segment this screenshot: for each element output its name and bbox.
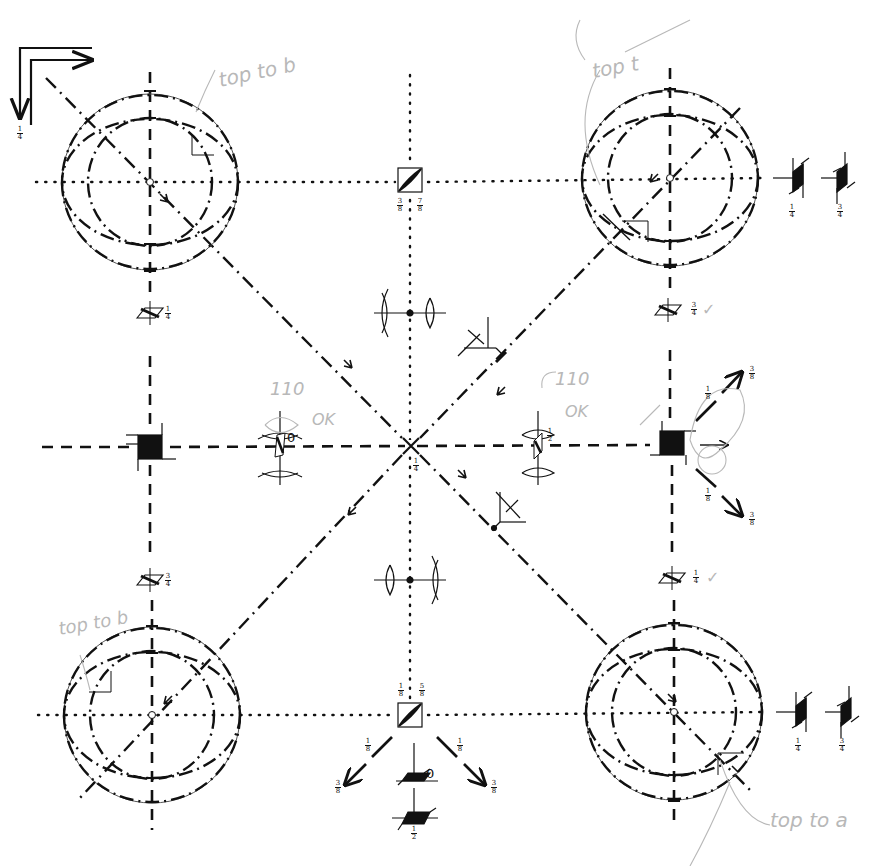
bs-bottom-label-1: 1 8 — [397, 683, 405, 698]
fraction-den: 8 — [456, 746, 464, 753]
fraction-num: 3 — [748, 512, 756, 519]
lens-pair-left — [258, 411, 302, 485]
sphere-bottom-right — [586, 623, 762, 801]
sphere-top-right — [582, 89, 758, 267]
fraction-num: 3 — [836, 204, 844, 211]
waveplate-left-top — [137, 301, 163, 325]
annotation-right-110: 110 — [555, 368, 589, 389]
fraction-den: 8 — [334, 788, 342, 795]
fraction-num: 7 — [416, 198, 424, 205]
fraction-num: 3 — [490, 780, 498, 787]
lens-right-plate-label: 1 2 — [546, 428, 554, 443]
fraction-num: 1 — [704, 488, 712, 495]
det-right-up-label-1: 1 8 — [704, 386, 712, 401]
fraction-den: 4 — [838, 746, 846, 753]
detector-left — [126, 423, 176, 471]
bottom-left-arrow-label-1: 1 8 — [364, 738, 372, 753]
fraction-den: 8 — [748, 374, 756, 381]
waveplate-left-bottom — [137, 568, 163, 592]
fraction-den: 4 — [836, 212, 844, 219]
fraction-den: 8 — [364, 746, 372, 753]
fraction-den: 8 — [416, 206, 424, 213]
waveplate-left-bottom-label: 3 4 — [164, 573, 172, 588]
fraction-num: 5 — [418, 683, 426, 690]
bottom-plate-upper-label: 0 — [426, 766, 434, 781]
fraction-num: 1 — [794, 738, 802, 745]
check-mark-right-top: ✓ — [702, 300, 715, 319]
det-right-down-label-1: 1 8 — [704, 488, 712, 503]
fraction-num: 3 — [164, 573, 172, 580]
waveplate-right-top-label: 3 4 — [690, 302, 698, 317]
fraction-num: 3 — [334, 780, 342, 787]
check-mark-right-bottom: ✓ — [706, 568, 719, 587]
bs-top-label-2: 7 8 — [416, 198, 424, 213]
fraction-num: 3 — [690, 302, 698, 309]
bottom-left-arrow-label-2: 3 8 — [334, 780, 342, 795]
fraction-den: 8 — [704, 394, 712, 401]
fraction-num: 1 — [364, 738, 372, 745]
detector-right-outputs — [696, 372, 742, 516]
fraction-den: 4 — [164, 581, 172, 588]
fraction-num: 3 — [396, 198, 404, 205]
fraction-num: 1 — [164, 306, 172, 313]
fraction-den: 2 — [410, 834, 418, 841]
fraction-den: 4 — [692, 578, 700, 585]
fraction-num: 3 — [748, 366, 756, 373]
fraction-num: 1 — [410, 826, 418, 833]
fraction-num: 1 — [692, 570, 700, 577]
right-plate-bottom-1-label: 1 4 — [794, 738, 802, 753]
annotation-left-110: 110 — [270, 378, 304, 399]
waveplate-right-top — [655, 298, 681, 322]
fraction-num: 1 — [546, 428, 554, 435]
mirror-lower — [492, 492, 527, 531]
center-crossing — [403, 438, 419, 454]
fraction-den: 8 — [396, 206, 404, 213]
fraction-den: 8 — [704, 496, 712, 503]
corner-fraction: 1 4 — [16, 126, 24, 141]
det-right-up-label-2: 3 8 — [748, 366, 756, 381]
fraction-den: 8 — [418, 691, 426, 698]
fraction-den: 2 — [546, 436, 554, 443]
fraction-den: 4 — [690, 310, 698, 317]
det-right-down-label-2: 3 8 — [748, 512, 756, 527]
right-plate-bottom-2-label: 3 4 — [838, 738, 846, 753]
annotation-right-ok: OK — [565, 402, 588, 421]
fraction-num: 3 — [838, 738, 846, 745]
beam-splitter-top — [398, 168, 422, 192]
bottom-plates — [392, 743, 438, 830]
beam-splitter-bottom — [398, 703, 422, 727]
center-label: 1 4 — [412, 458, 420, 473]
fraction-num: 1 — [397, 683, 405, 690]
right-plate-top-1-label: 1 4 — [788, 204, 796, 219]
bs-top-label-1: 3 8 — [396, 198, 404, 213]
detector-right — [650, 421, 696, 465]
waveplate-left-top-label: 1 4 — [164, 306, 172, 321]
fraction-den: 4 — [16, 134, 24, 141]
annotation-bottom-right-sphere: top to a — [770, 808, 848, 832]
fraction-den: 8 — [748, 520, 756, 527]
fraction-den: 8 — [397, 691, 405, 698]
bs-bottom-label-2: 5 8 — [418, 683, 426, 698]
fraction-num: 1 — [16, 126, 24, 133]
fraction-den: 8 — [490, 788, 498, 795]
bottom-right-arrow-label-2: 3 8 — [490, 780, 498, 795]
waveplate-right-bottom-label: 1 4 — [692, 570, 700, 585]
lens-left-plate-label: 0 — [287, 430, 295, 445]
fraction-den: 4 — [164, 314, 172, 321]
annotation-left-ok: OK — [312, 410, 335, 429]
optical-diagram — [0, 0, 881, 866]
fraction-num: 1 — [456, 738, 464, 745]
fraction-den: 4 — [788, 212, 796, 219]
bottom-right-arrow-label-1: 1 8 — [456, 738, 464, 753]
lens-pair-right — [522, 411, 554, 485]
bottom-plate-lower-label: 1 2 — [410, 826, 418, 841]
right-plates — [773, 152, 859, 738]
fraction-num: 1 — [704, 386, 712, 393]
fraction-den: 4 — [412, 466, 420, 473]
waveplate-right-bottom — [659, 566, 685, 590]
right-plate-top-2-label: 3 4 — [836, 204, 844, 219]
fraction-num: 1 — [788, 204, 796, 211]
fraction-den: 4 — [794, 746, 802, 753]
fraction-num: 1 — [412, 458, 420, 465]
